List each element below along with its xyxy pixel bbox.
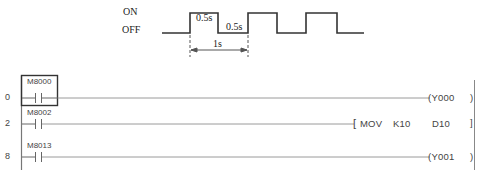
period-label: 1s xyxy=(213,38,222,49)
rung-8-wires xyxy=(22,152,430,162)
rung-0-wires xyxy=(22,93,430,103)
high-duration-label: 0.5s xyxy=(196,12,212,23)
coil-y001[interactable]: (Y001 xyxy=(428,151,454,162)
off-label: OFF xyxy=(122,24,140,35)
instr-operand-k10[interactable]: K10 xyxy=(393,118,411,129)
coil-y001-close: ) xyxy=(470,151,473,162)
pulse-waveform xyxy=(162,13,364,33)
contact-m8000-label[interactable]: M8000 xyxy=(27,77,51,86)
diagram-graphics xyxy=(0,0,486,181)
contact-m8002-label[interactable]: M8002 xyxy=(27,108,51,117)
rung-2-wires xyxy=(22,119,354,129)
coil-y001-label: Y001 xyxy=(431,151,454,162)
instr-mov[interactable]: MOV xyxy=(360,118,382,129)
coil-y000-close: ) xyxy=(470,92,473,103)
contact-m8013-label[interactable]: M8013 xyxy=(27,141,51,150)
low-duration-label: 0.5s xyxy=(226,21,242,32)
rung-step-8: 8 xyxy=(5,151,10,161)
coil-y000-label: Y000 xyxy=(431,92,454,103)
on-label: ON xyxy=(123,6,137,17)
instr-operand-d10[interactable]: D10 xyxy=(432,118,450,129)
instr-open-bracket: [ xyxy=(353,117,356,129)
rung-step-0: 0 xyxy=(5,92,10,102)
coil-y000[interactable]: (Y000 xyxy=(428,92,454,103)
instr-close-bracket: ] xyxy=(470,117,473,128)
rung-step-2: 2 xyxy=(5,118,10,128)
